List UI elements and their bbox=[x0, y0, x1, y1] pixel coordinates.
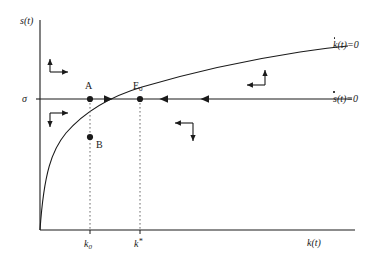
sdot-zero-label-s: s bbox=[333, 94, 337, 104]
sdot-zero-label-rest: (t)=0 bbox=[337, 93, 358, 104]
arrow-sdot-right-toward-E0 bbox=[104, 95, 113, 102]
flow-arrows-upper-left bbox=[50, 59, 68, 72]
sdot-zero-label: s(t)=0 bbox=[333, 94, 358, 104]
point-E0-label-subscript: 0 bbox=[139, 85, 143, 93]
arrow-sdot-left-toward-E0-near bbox=[160, 95, 169, 102]
x-tick-label-kstar-superscript: * bbox=[138, 237, 142, 246]
point-E0-marker bbox=[137, 96, 143, 102]
point-A-label: A bbox=[85, 81, 92, 91]
point-B-label: B bbox=[96, 140, 103, 150]
x-tick-label-k0: k0 bbox=[84, 239, 92, 249]
flow-arrows-upper-right bbox=[247, 70, 265, 85]
x-axis-label: k(t) bbox=[307, 238, 321, 248]
kdot-zero-label-k: k bbox=[333, 40, 337, 50]
y-axis-label: s(t) bbox=[20, 16, 33, 26]
y-tick-label-sigma: σ bbox=[22, 94, 27, 104]
x-tick-label-k0-subscript: 0 bbox=[88, 243, 92, 251]
phase-diagram-figure: s(t) k(t) σ k0 k* k(t)=0 s(t)=0 A E0 B bbox=[0, 0, 377, 265]
diagram-canvas bbox=[0, 0, 377, 265]
point-E0-label: E0 bbox=[133, 81, 143, 91]
x-tick-label-kstar: k* bbox=[134, 239, 142, 249]
arrow-sdot-left-toward-E0-far bbox=[201, 95, 210, 102]
kdot-zero-label: k(t)=0 bbox=[333, 40, 359, 50]
flow-arrows-lower-left bbox=[50, 113, 68, 127]
flow-arrows-lower-right bbox=[175, 123, 193, 141]
point-A-marker bbox=[87, 96, 93, 102]
kdot-zero-curve bbox=[40, 46, 348, 230]
point-B-marker bbox=[87, 134, 93, 140]
kdot-zero-label-rest: (t)=0 bbox=[337, 39, 358, 50]
